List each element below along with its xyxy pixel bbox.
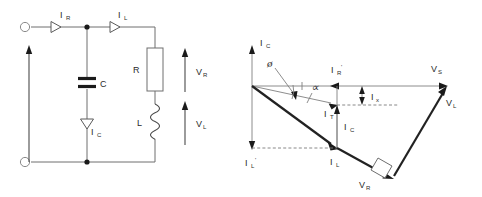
phasor-label-vr-sub: R	[366, 185, 371, 191]
figure-canvas: I R I L C I C R L V R V L	[0, 0, 482, 197]
label-inductor: L	[137, 118, 142, 128]
phasor-label-phi: ø	[266, 57, 273, 69]
label-capacitor: C	[100, 79, 107, 89]
phasor-label-il-sub: L	[336, 162, 340, 168]
phasor-label-ic: I	[344, 122, 347, 132]
phasor-label-ic-sub: C	[350, 127, 355, 133]
label-resistor: R	[133, 65, 140, 75]
phasor-label-vs: V	[431, 64, 437, 74]
phasor-label-ir-prime-mark: '	[341, 64, 342, 70]
current-arrow-il-icon	[110, 22, 120, 33]
phasor-diagram: I C ø ∝ I R ' I T I x I C I L I L ' V S …	[245, 38, 457, 191]
right-angle-marker	[371, 158, 392, 178]
phi-pointer-shaft	[275, 68, 294, 94]
phasor-label-it-sub: T	[330, 114, 334, 120]
vr-arrow-head	[182, 48, 188, 57]
inductor-symbol	[151, 104, 160, 139]
phasor-label-alpha: ∝	[311, 81, 320, 93]
phasor-label-il-prime-mark: '	[255, 157, 256, 163]
phasor-label-ir-prime: I	[331, 65, 334, 75]
phasor-label-il-prime: I	[245, 158, 248, 168]
phasor-label-vr: V	[359, 180, 365, 190]
phasor-label-vl-sub: L	[453, 103, 457, 109]
phasor-il-prime-head	[249, 141, 255, 150]
phasor-label-il-prime-sub: L	[251, 163, 255, 169]
junction-node-top	[84, 24, 89, 29]
phasor-ix-head-up	[359, 86, 365, 94]
phasor-axis-ic-head	[249, 45, 255, 54]
current-arrow-ir-icon	[51, 22, 61, 33]
input-terminal-top[interactable]	[20, 22, 29, 31]
phasor-label-vs-sub: S	[438, 69, 442, 75]
phasor-label-it: I	[324, 109, 327, 119]
circuit-diagram: I R I L C I C R L V R V L	[20, 10, 208, 167]
label-il-sub: L	[124, 15, 128, 21]
source-arrow-head	[26, 45, 32, 54]
label-vr: V	[196, 67, 202, 77]
phasor-label-ic-axis-sub: C	[266, 43, 271, 49]
vl-arrow-head	[182, 101, 188, 110]
junction-node-bottom	[84, 159, 89, 164]
label-il: I	[118, 10, 121, 20]
phasor-vl-shaft	[394, 93, 443, 176]
phasor-label-ic-axis: I	[260, 38, 263, 48]
resistor-symbol	[147, 48, 163, 91]
input-terminal-bottom[interactable]	[20, 157, 29, 166]
phasor-ix-head-down	[359, 97, 365, 105]
label-vl: V	[196, 119, 202, 129]
phasor-label-ir-prime-sub: R	[337, 70, 342, 76]
phasor-label-ix: I	[371, 92, 374, 102]
phasor-ir-prime-head	[330, 83, 339, 90]
figure-root: I R I L C I C R L V R V L	[0, 0, 482, 197]
label-ir-sub: R	[66, 15, 71, 21]
label-vl-sub: L	[203, 124, 207, 130]
label-vr-sub: R	[203, 72, 208, 78]
label-ic-circuit-sub: C	[97, 132, 102, 138]
label-ir: I	[60, 10, 63, 20]
phasor-label-vl: V	[446, 98, 452, 108]
phasor-label-il: I	[330, 157, 333, 167]
phasor-label-ix-sub: x	[376, 97, 379, 103]
label-ic-circuit: I	[91, 127, 94, 137]
